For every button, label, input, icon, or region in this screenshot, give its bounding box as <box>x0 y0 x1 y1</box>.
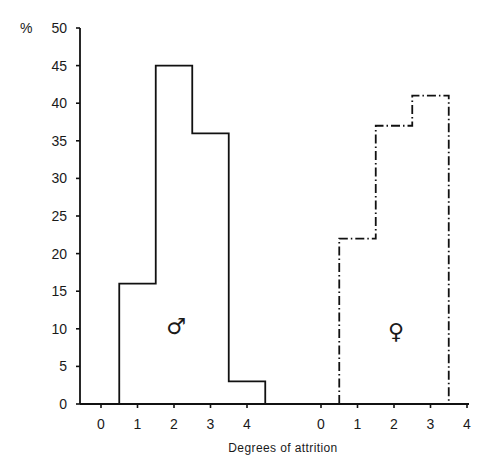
y-axis: 05101520253035404550 <box>51 20 80 412</box>
y-tick-label: 45 <box>51 58 67 74</box>
y-axis-unit-label: % <box>20 20 32 36</box>
female-x-tick-label: 4 <box>463 416 471 432</box>
y-tick-label: 10 <box>51 321 67 337</box>
female-symbol-label: ♀ <box>388 319 404 344</box>
male-x-tick-label: 0 <box>97 416 105 432</box>
male-x-tick-label: 4 <box>243 416 251 432</box>
y-tick-label: 35 <box>51 133 67 149</box>
y-tick-label: 20 <box>51 246 67 262</box>
female-x-tick-label: 0 <box>317 416 325 432</box>
male-x-tick-label: 2 <box>170 416 178 432</box>
male-x-tick-label: 3 <box>207 416 215 432</box>
male-histogram-outline <box>119 66 265 404</box>
female-x-tick-label: 1 <box>354 416 362 432</box>
y-tick-label: 50 <box>51 20 67 36</box>
y-tick-label: 30 <box>51 170 67 186</box>
y-tick-label: 15 <box>51 283 67 299</box>
female-histogram-outline <box>339 96 449 404</box>
y-tick-label: 0 <box>59 396 67 412</box>
male-x-tick-label: 1 <box>134 416 142 432</box>
male-symbol-label: ♂ <box>166 314 186 339</box>
y-tick-label: 40 <box>51 95 67 111</box>
histogram-bars <box>119 66 449 404</box>
y-tick-label: 25 <box>51 208 67 224</box>
attrition-histogram-chart: 05101520253035404550 0123401234 % Degree… <box>0 0 490 474</box>
y-tick-label: 5 <box>59 358 67 374</box>
x-axis-title: Degrees of attrition <box>228 441 337 455</box>
female-x-tick-label: 3 <box>427 416 435 432</box>
x-axis: 0123401234 <box>80 404 471 432</box>
female-x-tick-label: 2 <box>390 416 398 432</box>
